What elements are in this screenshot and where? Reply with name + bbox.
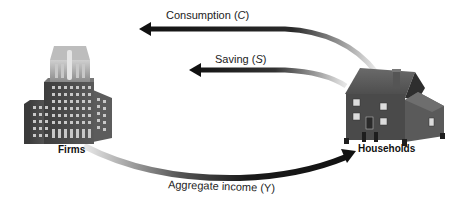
- saving-label: Saving (S): [215, 53, 266, 65]
- consumption-symbol: C: [238, 9, 246, 21]
- consumption-label: Consumption (C): [166, 9, 249, 21]
- saving-symbol: S: [255, 53, 262, 65]
- saving-arrow: [189, 63, 346, 86]
- firms-label: Firms: [58, 144, 85, 155]
- arrowhead-icon: [189, 63, 201, 77]
- households-house-icon: [344, 68, 445, 146]
- income-symbol: Y: [264, 181, 272, 193]
- firms-building-icon: [24, 46, 112, 144]
- circular-flow-diagram: [0, 0, 465, 202]
- arrowhead-icon: [139, 22, 151, 36]
- income-arrow: [84, 146, 356, 178]
- households-label: Households: [358, 143, 415, 154]
